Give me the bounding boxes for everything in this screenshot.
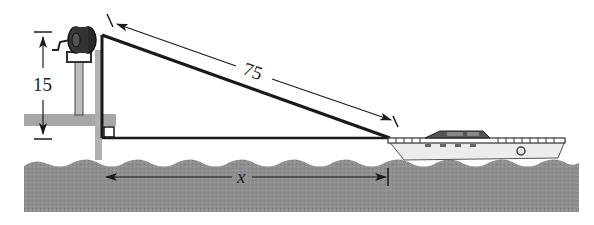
right-angle-marker	[104, 127, 114, 137]
figure-svg: 15 75 x	[0, 0, 594, 225]
diagram: 15 75 x	[0, 0, 594, 225]
rope-length-label: 75	[240, 58, 265, 84]
height-label: 15	[33, 74, 52, 95]
boat-icon	[388, 131, 565, 160]
rope-hypotenuse	[102, 35, 390, 138]
winch-icon	[52, 27, 96, 53]
water	[24, 159, 579, 212]
distance-label: x	[236, 166, 246, 187]
winch-post	[75, 60, 83, 115]
